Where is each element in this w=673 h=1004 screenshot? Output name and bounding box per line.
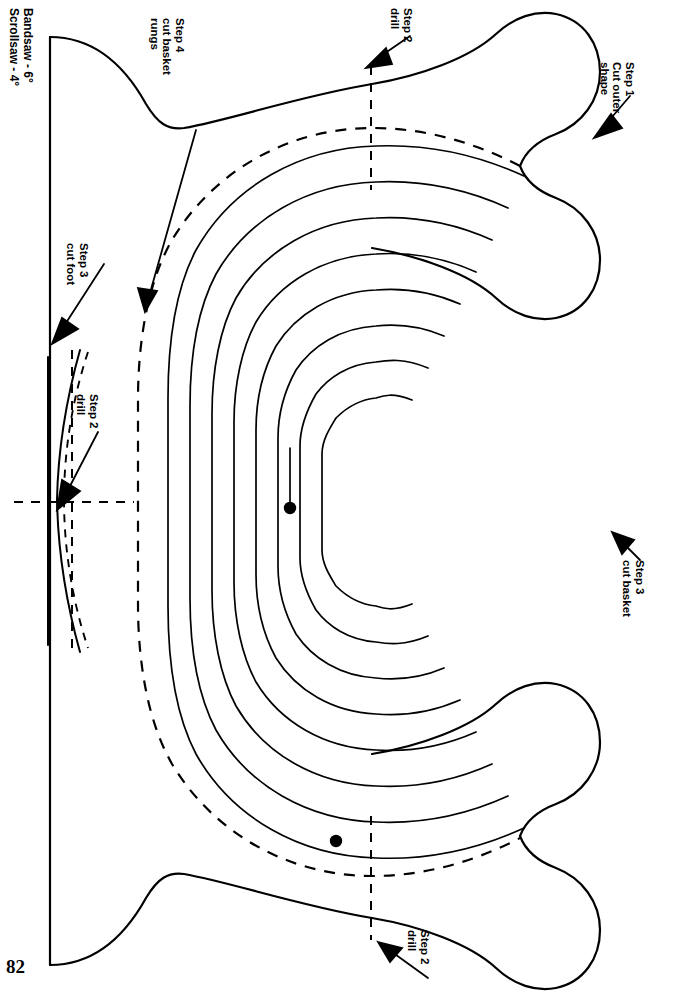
basket-rung: [256, 289, 460, 714]
page-number: 82: [6, 956, 25, 978]
leader-step-3-cut-basket: [612, 532, 640, 560]
basket-rung: [168, 146, 524, 859]
annotation-leaders: [52, 36, 640, 978]
leader-step-4-cut-basket-rungs: [138, 130, 196, 312]
drill-points: [284, 502, 342, 847]
basket-rung: [212, 218, 492, 787]
basket-rung: [322, 395, 412, 609]
annotation-step-3-cut-foot: Step 3 cut foot: [65, 243, 90, 285]
saw-settings-label-2: Scrollsaw - 4°: [7, 8, 20, 86]
outer-shape-path: [50, 13, 600, 989]
annotation-step-2-drill-top: Step 2 drill: [389, 8, 414, 43]
annotation-step-3-cut-basket: Step 3 cut basket: [621, 560, 646, 617]
annotation-step-2-drill-foot: Step 2 drill: [75, 394, 100, 429]
pattern-artwork: [0, 0, 673, 1004]
annotation-step-2-drill-bottom: Step 2 drill: [406, 930, 431, 965]
basket-rung: [278, 325, 444, 679]
basket-rung: [300, 360, 428, 643]
annotation-step-4-cut-basket-rungs: Step 4 cut basket rungs: [149, 18, 187, 75]
pattern-page: Bandsaw - 6° Scrollsaw - 4° Step 4 cut b…: [0, 0, 673, 1004]
saw-settings-label: Bandsaw - 6°: [21, 8, 34, 83]
drill-center-lines: [14, 66, 371, 940]
basket-rungs: [168, 146, 524, 859]
drill-point-outer: [330, 835, 342, 847]
leader-step-2-drill-foot: [57, 432, 98, 510]
drill-point-inner: [284, 502, 296, 514]
cut-basket-guide-dashed: [138, 128, 520, 876]
basket-rung: [234, 254, 476, 751]
annotation-step-1-cut-outer-shape: Step 1 Cut outer shape: [599, 62, 637, 113]
